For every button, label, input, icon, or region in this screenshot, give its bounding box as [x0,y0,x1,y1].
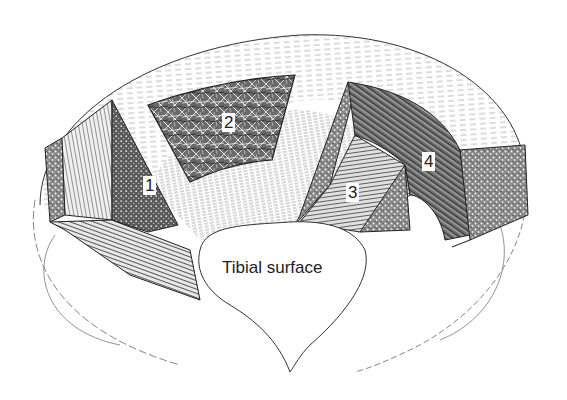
section-label-3: 3 [346,183,359,202]
section-label-4: 4 [422,152,435,171]
inner-boundary-line-right [440,225,504,340]
meniscus-illustration [0,0,567,400]
tibial-surface-label: Tibial surface [222,258,322,278]
section-label-2: 2 [222,113,235,132]
tibial-surface-region [199,222,367,372]
section-label-1: 1 [143,176,156,195]
meniscus-diagram: 1 2 3 4 Tibial surface [0,0,567,400]
